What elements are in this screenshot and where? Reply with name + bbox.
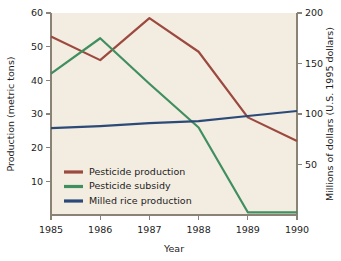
left-axis-title: Production (metric tons): [5, 56, 16, 171]
bottom-axis-ticks: 198519861987198819891990: [39, 215, 309, 235]
left-axis: 102030405060 Production (metric tons): [5, 7, 51, 215]
bottom-tick-label: 1990: [285, 224, 309, 235]
left-tick-label: 10: [31, 176, 43, 187]
left-axis-ticks: 102030405060: [31, 7, 51, 186]
bottom-axis-title: Year: [163, 243, 184, 254]
bottom-axis: 198519861987198819891990 Year: [39, 215, 309, 254]
bottom-tick-label: 1985: [39, 224, 63, 235]
left-tick-label: 60: [31, 7, 43, 18]
right-axis: 50100150200 Millions of dollars (U.S. 19…: [297, 7, 335, 215]
left-tick-label: 40: [31, 75, 43, 86]
left-tick-label: 50: [31, 41, 43, 52]
left-tick-label: 30: [31, 108, 43, 119]
right-tick-label: 100: [305, 108, 323, 119]
right-axis-title: Millions of dollars (U.S. 1995 dollars): [324, 27, 335, 201]
bottom-tick-label: 1989: [236, 224, 260, 235]
bottom-tick-label: 1988: [187, 224, 211, 235]
chart-figure: 102030405060 Production (metric tons) 50…: [0, 0, 341, 261]
left-tick-label: 20: [31, 142, 43, 153]
bottom-tick-label: 1987: [137, 224, 161, 235]
legend-label: Pesticide production: [89, 166, 185, 177]
line-chart: 102030405060 Production (metric tons) 50…: [0, 0, 341, 261]
right-tick-label: 50: [305, 159, 317, 170]
right-tick-label: 200: [305, 7, 323, 18]
legend-label: Pesticide subsidy: [89, 180, 171, 191]
right-tick-label: 150: [305, 58, 323, 69]
legend-label: Milled rice production: [89, 195, 192, 206]
bottom-tick-label: 1986: [88, 224, 112, 235]
right-axis-ticks: 50100150200: [297, 7, 323, 170]
